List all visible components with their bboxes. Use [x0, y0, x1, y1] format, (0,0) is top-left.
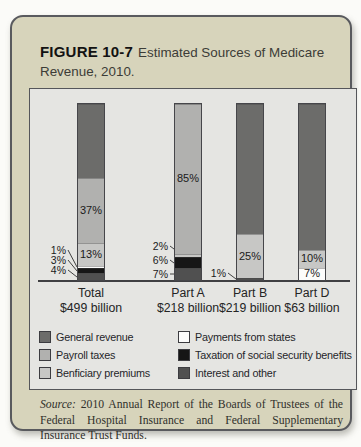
segment-value-label: 25% — [239, 251, 261, 262]
source-label: Source: — [40, 398, 76, 411]
leader-line — [68, 270, 77, 277]
bar-part-b: 25% — [236, 103, 264, 281]
segment-general — [237, 104, 263, 234]
segment-payroll: 37% — [78, 178, 104, 243]
bar-total: 37%13% — [77, 103, 105, 281]
chart-panel: 37%13%Total$499 billion85%Part A$218 bil… — [29, 88, 357, 390]
segment-value-label: 7% — [304, 268, 320, 279]
category-name: Part D — [284, 286, 339, 301]
callout-label: 6% — [142, 255, 168, 266]
category-label-part-d: Part D$63 billion — [284, 286, 339, 316]
category-name: Total — [60, 286, 122, 301]
segment-beneficiary: 25% — [237, 234, 263, 278]
legend-item-benficiary-premiums: Benficiary premiums — [39, 367, 150, 379]
bar-part-d: 10%7% — [298, 103, 326, 281]
segment-value-label: 37% — [80, 205, 102, 216]
leader-line — [68, 260, 77, 271]
segment-interest — [175, 268, 201, 280]
legend-label: General revenue — [56, 331, 133, 343]
category-amount: $499 billion — [60, 301, 122, 316]
segment-value-label: 85% — [177, 173, 199, 184]
segment-interest — [78, 273, 104, 280]
legend-swatch-beneficiary — [39, 367, 51, 379]
legend-swatch-general — [39, 331, 51, 343]
category-amount: $219 billion — [219, 301, 281, 316]
callout-label: 4% — [40, 265, 66, 276]
category-amount: $218 billion — [157, 301, 219, 316]
category-name: Part A — [157, 286, 219, 301]
segment-general — [299, 104, 325, 250]
callout-label: 7% — [142, 269, 168, 280]
legend-item-payroll-taxes: Payroll taxes — [39, 349, 150, 361]
legend-label: Taxation of social security benefits — [195, 349, 352, 361]
legend-item-interest-and-other: Interest and other — [178, 367, 352, 379]
segment-payroll: 85% — [175, 104, 201, 254]
category-name: Part B — [219, 286, 281, 301]
legend-swatch-payroll — [39, 349, 51, 361]
figure-header: FIGURE 10-7Estimated Sources of Medicare… — [40, 43, 342, 81]
legend-left-column: General revenuePayroll taxesBenficiary p… — [39, 331, 150, 379]
callout-label: 1% — [200, 268, 226, 279]
bar-part-a: 85% — [174, 103, 202, 281]
segment-beneficiary: 13% — [78, 243, 104, 266]
segment-value-label: 13% — [80, 249, 102, 260]
category-label-total: Total$499 billion — [60, 286, 122, 316]
legend-swatch-taxation — [178, 349, 190, 361]
legend-label: Payments from states — [195, 331, 295, 343]
category-label-part-b: Part B$219 billion — [219, 286, 281, 316]
callout-label: 2% — [142, 241, 168, 252]
legend-item-payments-from-states: Payments from states — [178, 331, 352, 343]
segment-value-label: 10% — [301, 253, 323, 264]
leader-line — [228, 273, 236, 279]
legend-swatch-interest — [178, 367, 190, 379]
figure-label: FIGURE 10-7 — [40, 43, 133, 60]
leader-line — [68, 250, 77, 267]
figure-title-line1: Estimated Sources of Medicare — [138, 45, 324, 60]
figure-card: FIGURE 10-7Estimated Sources of Medicare… — [10, 15, 352, 431]
figure-title-line2: Revenue, 2010. — [40, 64, 135, 79]
legend-right-column: Payments from statesTaxation of social s… — [178, 331, 352, 379]
legend-label: Interest and other — [195, 367, 276, 379]
legend-item-taxation-of-social-security-benefits: Taxation of social security benefits — [178, 349, 352, 361]
source-text: 2010 Annual Report of the Boards of Trus… — [40, 398, 343, 442]
legend-item-general-revenue: General revenue — [39, 331, 150, 343]
segment-states: 7% — [299, 268, 325, 280]
source-note: Source: 2010 Annual Report of the Boards… — [40, 397, 343, 444]
legend-label: Payroll taxes — [56, 349, 115, 361]
segment-beneficiary: 10% — [299, 250, 325, 268]
segment-interest — [237, 278, 263, 280]
legend-swatch-states — [178, 331, 190, 343]
segment-general — [78, 104, 104, 178]
figure-page: FIGURE 10-7Estimated Sources of Medicare… — [0, 0, 361, 447]
category-amount: $63 billion — [284, 301, 339, 316]
category-label-part-a: Part A$218 billion — [157, 286, 219, 316]
segment-taxation — [175, 257, 201, 268]
legend-label: Benficiary premiums — [56, 367, 150, 379]
